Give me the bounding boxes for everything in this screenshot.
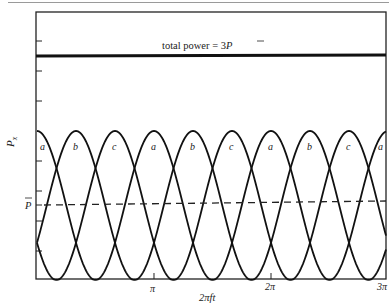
pbar-tick-label: P <box>24 200 32 211</box>
x-axis-ticks <box>154 273 271 279</box>
power-chart: abcabcabca total power = 3P P Px π 2π 3π… <box>0 0 389 303</box>
y-axis-label: Px <box>4 136 19 148</box>
total-power-line <box>36 55 386 56</box>
curve-label-c: c <box>229 141 234 152</box>
curve-label-a: a <box>40 141 45 152</box>
average-power-line <box>44 201 386 205</box>
curve-label-b: b <box>307 141 312 152</box>
total-power-label: total power = 3P <box>162 40 233 51</box>
x-tick-label-2pi: 2π <box>265 281 276 292</box>
x-axis-label: 2πft <box>199 292 216 303</box>
curve-label-a: a <box>151 141 156 152</box>
curve-label-b: b <box>73 141 78 152</box>
x-tick-label-3pi: 3π <box>376 281 388 292</box>
curve-label-c: c <box>112 141 117 152</box>
phase-c-curve <box>37 131 386 280</box>
phase-power-curves: abcabcabca <box>37 131 386 280</box>
x-tick-label-pi: π <box>150 283 156 294</box>
curve-label-a: a <box>268 141 273 152</box>
curve-label-b: b <box>190 141 195 152</box>
curve-label-c: c <box>346 141 351 152</box>
curve-label-a: a <box>378 141 383 152</box>
